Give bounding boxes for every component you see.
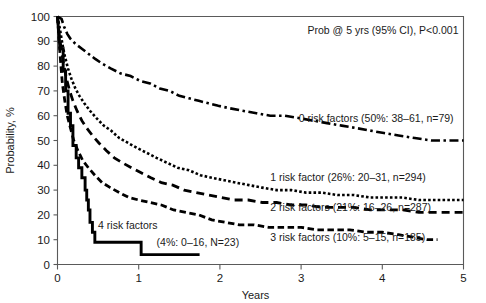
y-axis-tick-label: 0: [44, 259, 50, 271]
x-axis-tick-label: 3: [298, 272, 304, 284]
y-axis-title: Probability, %: [4, 107, 16, 174]
y-axis-tick-label: 30: [37, 184, 50, 196]
kaplan-meier-survival-figure: 0102030405060708090100012345Probability,…: [0, 0, 486, 303]
y-axis-tick-label: 50: [37, 135, 50, 147]
series-label-secondary-4-risk-factors: (4%: 0–16, N=23): [157, 236, 240, 248]
y-axis-tick-label: 40: [37, 159, 50, 171]
x-axis-tick-label: 5: [460, 272, 466, 284]
y-axis-tick-label: 80: [37, 60, 50, 72]
y-axis-tick-label: 10: [37, 234, 50, 246]
annotations-layer: Prob @ 5 yrs (95% CI), P<0.0010 risk fac…: [98, 24, 459, 248]
chart-canvas: 0102030405060708090100012345Probability,…: [0, 0, 486, 303]
y-axis-tick-label: 60: [37, 110, 50, 122]
series-label-0-risk-factors: 0 risk factors (50%: 38–61, n=79): [299, 112, 454, 124]
x-axis-tick-label: 1: [135, 272, 141, 284]
axes-layer: 0102030405060708090100012345Probability,…: [4, 11, 467, 301]
x-axis-tick-label: 2: [217, 272, 223, 284]
y-axis-tick-label: 100: [31, 11, 50, 23]
annotation-header: Prob @ 5 yrs (95% CI), P<0.001: [307, 24, 458, 36]
y-axis-tick-label: 90: [37, 35, 50, 47]
series-label-2-risk-factors: 2 risk factors (21%: 16–26, n=287): [270, 201, 431, 213]
y-axis-tick-label: 70: [37, 85, 50, 97]
y-axis-tick-label: 20: [37, 209, 50, 221]
x-axis-tick-label: 0: [54, 272, 60, 284]
series-label-1-risk-factor: 1 risk factor (26%: 20–31, n=294): [270, 171, 426, 183]
series-label-3-risk-factors: 3 risk factors (10%: 5–15, n=185): [270, 231, 425, 243]
x-axis-tick-label: 4: [379, 272, 386, 284]
x-axis-title: Years: [242, 289, 270, 301]
series-label-4-risk-factors: 4 risk factors: [98, 219, 158, 231]
